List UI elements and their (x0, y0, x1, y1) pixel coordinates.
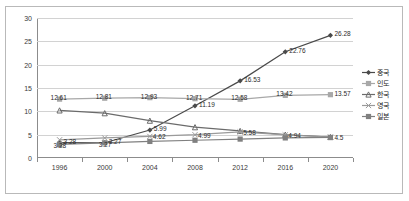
data-point-marker (366, 70, 371, 75)
data-point-label: 4.62 (153, 134, 166, 141)
legend-marker-icon (362, 90, 375, 99)
y-axis-tick-label: 15 (24, 85, 32, 92)
plot-area: 051015202530 199620002004200820122016202… (37, 18, 353, 158)
data-point-marker (192, 138, 197, 143)
series-layer (37, 18, 353, 158)
data-point-marker (328, 135, 333, 140)
chart-figure: 051015202530 199620002004200820122016202… (0, 0, 409, 201)
legend-item[interactable]: 한국 (362, 90, 406, 99)
data-point-label: 13.57 (334, 90, 350, 97)
x-axis-tick-label: 2004 (142, 164, 158, 171)
legend: 중국인도한국영국일본 (362, 68, 406, 121)
data-point-label: 4.94 (288, 133, 301, 140)
legend-marker-icon (362, 101, 375, 110)
x-axis-tick-mark (308, 158, 309, 162)
data-point-marker (147, 139, 152, 144)
legend-marker-icon (362, 68, 375, 77)
x-axis-tick-mark (172, 158, 173, 162)
data-point-label: 26.28 (334, 31, 350, 38)
data-point-marker (328, 92, 333, 97)
data-point-label: 12.71 (186, 94, 202, 101)
x-axis-tick-mark (37, 158, 38, 162)
y-axis-tick-label: 0 (28, 155, 32, 162)
data-point-label: 16.53 (244, 77, 260, 84)
x-axis-tick-label: 2000 (97, 164, 113, 171)
x-axis-tick-mark (82, 158, 83, 162)
legend-item[interactable]: 영국 (362, 101, 406, 110)
data-point-marker (283, 135, 288, 140)
x-axis-tick-label: 2012 (232, 164, 248, 171)
legend-item[interactable]: 중국 (362, 68, 406, 77)
data-point-marker (238, 137, 243, 142)
x-axis-tick-mark (263, 158, 264, 162)
legend-marker-icon (362, 79, 375, 88)
data-point-label: 3.28 (54, 143, 67, 150)
x-axis-tick-label: 2020 (323, 164, 339, 171)
y-axis-tick-label: 30 (24, 15, 32, 22)
legend-label: 중국 (377, 69, 389, 76)
legend-marker-icon (362, 112, 375, 121)
data-point-marker (57, 108, 62, 113)
data-point-label: 5.58 (243, 130, 256, 137)
legend-item[interactable]: 일본 (362, 112, 406, 121)
data-point-marker (192, 103, 197, 108)
y-axis-tick-label: 25 (24, 38, 32, 45)
data-point-label: 12.61 (51, 95, 67, 102)
data-point-label: 22.76 (289, 48, 305, 55)
x-axis-tick-mark (353, 158, 354, 162)
legend-label: 인도 (377, 80, 389, 87)
data-point-marker (366, 81, 371, 86)
y-axis-tick-label: 20 (24, 61, 32, 68)
data-point-label: 12.58 (231, 95, 247, 102)
legend-item[interactable]: 인도 (362, 79, 406, 88)
data-point-marker (328, 33, 333, 38)
legend-label: 일본 (377, 113, 389, 120)
data-point-label: 4.99 (198, 132, 211, 139)
y-axis-tick-label: 10 (24, 108, 32, 115)
data-point-label: 12.93 (141, 93, 157, 100)
x-axis-tick-label: 1996 (52, 164, 68, 171)
x-axis-tick-label: 2008 (187, 164, 203, 171)
data-point-label: 12.81 (96, 94, 112, 101)
x-axis-tick-mark (218, 158, 219, 162)
x-axis-tick-mark (127, 158, 128, 162)
data-point-label: 11.19 (199, 102, 215, 109)
legend-label: 영국 (377, 102, 389, 109)
x-axis-tick-label: 2016 (277, 164, 293, 171)
data-point-label: 5.99 (154, 126, 167, 133)
data-point-marker (366, 114, 371, 119)
legend-label: 한국 (377, 91, 389, 98)
data-point-label: 4.5 (334, 135, 343, 142)
data-point-marker (147, 127, 152, 132)
data-point-label: 13.42 (276, 91, 292, 98)
data-point-label: 3.27 (99, 142, 112, 149)
y-axis-tick-label: 5 (28, 131, 32, 138)
